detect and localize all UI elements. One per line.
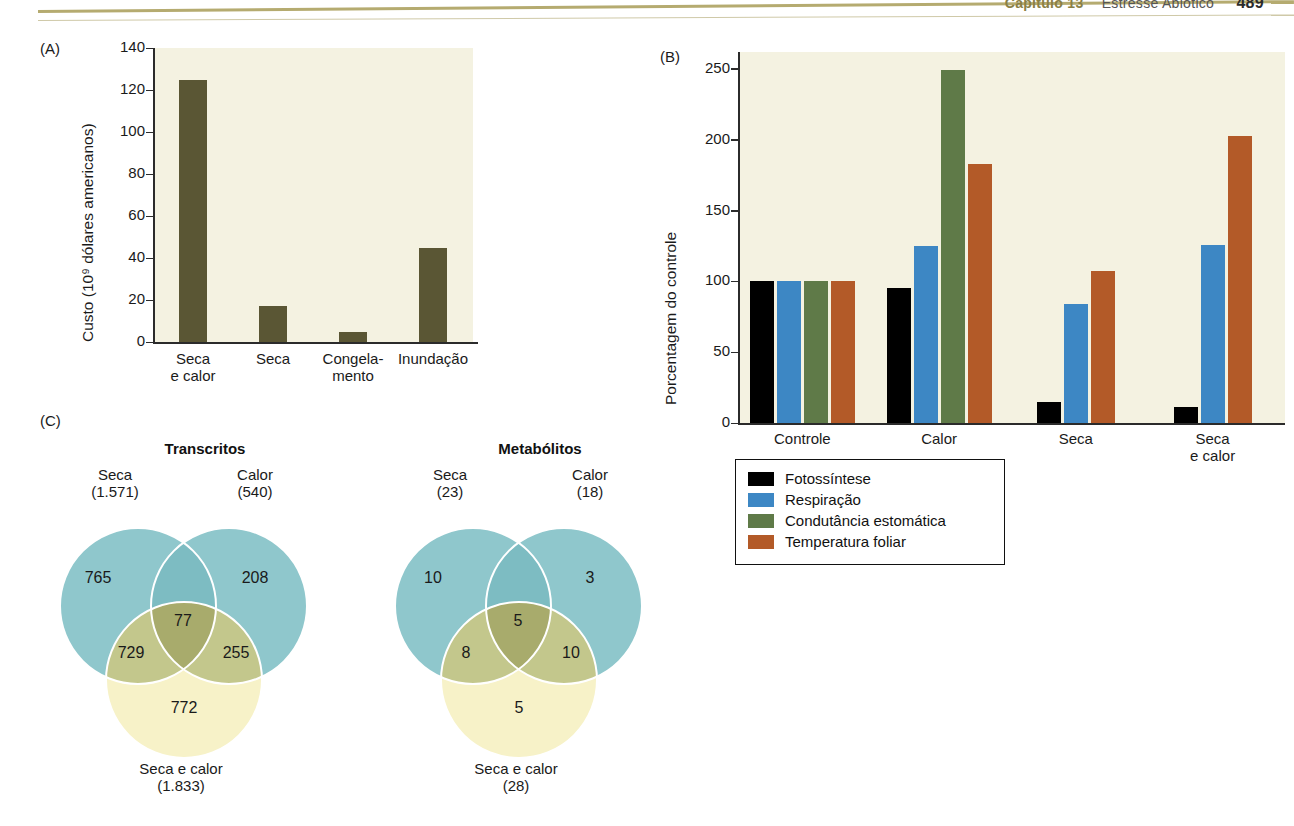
panel-a-x-axis (153, 342, 478, 344)
panel-a-category-label: Inundação (363, 351, 503, 368)
venn-count-calor-secaecalor-transcritos: 255 (196, 644, 276, 662)
venn-set-label-line: (540) (190, 483, 320, 500)
panel-a-y-tick (146, 90, 153, 92)
venn-set-label-line: Seca (50, 466, 180, 483)
legend-swatch-condut-ncia-estom-tica (748, 514, 774, 528)
panel-b-category-line: Seca (1006, 431, 1146, 448)
panel-b-y-tick (731, 352, 738, 354)
panel-b-bar (1091, 271, 1115, 423)
panel-b-bar (831, 281, 855, 423)
panel-b-bar (1037, 402, 1061, 423)
venn-metabolitos: MetabólitosSeca(23)Calor(18)10358105Seca… (375, 440, 705, 820)
panel-b-bar (1228, 136, 1252, 423)
venn-set-label-line: (1.571) (50, 483, 180, 500)
venn-set-label-line: (1.833) (71, 777, 291, 794)
legend-swatch-fotoss-ntese (748, 472, 774, 486)
panel-b-y-tick-label: 250 (678, 59, 730, 76)
panel-a-y-tick-label: 20 (95, 290, 145, 307)
legend-item: Condutância estomática (748, 510, 1004, 531)
venn-title-transcritos: Transcritos (40, 440, 370, 457)
panel-a-category-line: mento (283, 368, 423, 385)
panel-a-y-tick (146, 342, 153, 344)
panel-b-y-tick-label: 0 (678, 413, 730, 430)
panel-a-y-tick-label: 100 (95, 122, 145, 139)
panel-a-y-tick-label: 140 (95, 38, 145, 55)
panel-a-y-tick (146, 258, 153, 260)
panel-b-y-tick (731, 281, 738, 283)
panel-b-category-label: Calor (869, 431, 1009, 448)
panel-a-y-tick-label: 40 (95, 248, 145, 265)
panel-b-y-tick-label: 100 (678, 271, 730, 288)
venn-set-label-line: Seca e calor (406, 760, 626, 777)
venn-title-metabolitos: Metabólitos (375, 440, 705, 457)
panel-b-y-tick (731, 210, 738, 212)
venn-count-seca-only-metabolitos: 10 (393, 569, 473, 587)
panel-c-letter: (C) (40, 412, 61, 429)
panel-b-y-axis (738, 52, 740, 424)
venn-set-label-line: (23) (385, 483, 515, 500)
venn-count-seca-only-transcritos: 765 (58, 569, 138, 587)
legend-item: Respiração (748, 489, 1004, 510)
venn-set-label-seca-e-calor-metabolitos: Seca e calor(28) (406, 760, 626, 795)
panel-a-category-line: Inundação (363, 351, 503, 368)
panel-b-y-tick-label: 50 (678, 342, 730, 359)
panel-a-y-tick (146, 216, 153, 218)
venn-set-label-line: Seca (385, 466, 515, 483)
panel-a-y-axis-title: Custo (10⁹ dólares americanos) (79, 123, 97, 342)
venn-set-label-seca-e-calor-transcritos: Seca e calor(1.833) (71, 760, 291, 795)
legend-item: Fotossíntese (748, 468, 1004, 489)
venn-set-label-line: (28) (406, 777, 626, 794)
panel-b-category-line: Calor (869, 431, 1009, 448)
venn-set-label-line: (18) (525, 483, 655, 500)
venn-count-seca-e-calor-only-transcritos: 772 (144, 699, 224, 717)
legend-swatch-temperatura-foliar (748, 535, 774, 549)
panel-b-y-tick-label: 200 (678, 130, 730, 147)
panel-b-category-line: e calor (1143, 448, 1283, 465)
venn-count-calor-secaecalor-metabolitos: 10 (531, 644, 611, 662)
panel-b-legend: FotossínteseRespiraçãoCondutância estomá… (735, 459, 1005, 565)
panel-a-letter: (A) (40, 40, 60, 57)
venn-set-label-line: Seca e calor (71, 760, 291, 777)
panel-b-bar (968, 164, 992, 423)
panel-b-category-line: Seca (1143, 431, 1283, 448)
page-header: Capítulo 13 Estresse Abiótico 489 (0, 0, 1294, 26)
venn-svg-transcritos (43, 518, 343, 768)
legend-item-label: Respiração (785, 491, 861, 508)
panel-b-bar (1174, 407, 1198, 423)
venn-transcritos: TranscritosSeca(1.571)Calor(540)76520877… (40, 440, 370, 820)
panel-a-y-tick-label: 120 (95, 80, 145, 97)
panel-b-bar (914, 246, 938, 423)
panel-a-bar (179, 80, 207, 343)
running-head: Capítulo 13 Estresse Abiótico 489 (1005, 0, 1264, 12)
venn-count-seca-secaecalor-metabolitos: 8 (426, 644, 506, 662)
panel-b-category-label: Seca (1006, 431, 1146, 448)
venn-set-label-line: Calor (190, 466, 320, 483)
chapter-label: Capítulo 13 (1005, 0, 1084, 11)
panel-b-y-axis-title: Porcentagem do controle (662, 232, 680, 405)
panel-a-bar (419, 248, 447, 343)
panel-a-y-tick (146, 300, 153, 302)
panel-a-category-line: e calor (123, 368, 263, 385)
venn-set-label-line: Calor (525, 466, 655, 483)
panel-a-y-tick (146, 174, 153, 176)
venn-count-calor-only-metabolitos: 3 (550, 569, 630, 587)
panel-a-y-tick (146, 132, 153, 134)
panel-b-category-label: Secae calor (1143, 431, 1283, 465)
panel-b-legend-list: FotossínteseRespiraçãoCondutância estomá… (736, 460, 1004, 552)
panel-b-bar (1064, 304, 1088, 423)
panel-b-bar (941, 70, 965, 423)
page-number: 489 (1236, 0, 1264, 11)
panel-b-y-tick (731, 68, 738, 70)
panel-a-y-tick-label: 60 (95, 206, 145, 223)
legend-item-label: Condutância estomática (785, 512, 946, 529)
panel-a-bar (339, 332, 367, 343)
venn-count-seca-secaecalor-transcritos: 729 (91, 644, 171, 662)
panel-b-bar (804, 281, 828, 423)
venn-svg-metabolitos (378, 518, 678, 768)
panel-b-bar (750, 281, 774, 423)
panel-b-letter: (B) (660, 48, 680, 65)
panel-b-bar (777, 281, 801, 423)
venn-count-all-three-transcritos: 77 (143, 612, 223, 630)
panel-a-y-tick-label: 80 (95, 164, 145, 181)
venn-count-calor-only-transcritos: 208 (215, 569, 295, 587)
